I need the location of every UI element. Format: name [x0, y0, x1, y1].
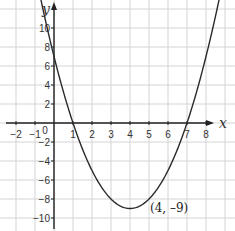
x-tick-label: 8: [203, 129, 209, 140]
y-tick-label: −6: [39, 175, 51, 186]
x-axis-arrow-icon: [206, 120, 214, 126]
y-tick-label: 4: [44, 80, 50, 91]
x-tick-label: 0: [42, 125, 48, 136]
y-tick-label: −8: [39, 194, 51, 205]
y-axis-label: y: [41, 1, 51, 17]
x-tick-label: 2: [89, 129, 95, 140]
parabola-chart: −2−1012345678−10−8−6−4−2246810 x y (4, –…: [0, 0, 235, 231]
x-tick-label: 6: [165, 129, 171, 140]
grid: [0, 0, 235, 231]
y-tick-label: −4: [39, 156, 51, 167]
y-tick-label: 6: [44, 61, 50, 72]
y-tick-label: 8: [44, 42, 50, 53]
x-tick-label: 5: [146, 129, 152, 140]
vertex-annotation: (4, –9): [150, 201, 188, 215]
y-tick-label: −2: [39, 137, 51, 148]
y-axis-arrow-icon: [51, 2, 57, 10]
y-tick-label: −10: [33, 213, 50, 224]
x-tick-label: 3: [108, 129, 114, 140]
y-tick-label: 2: [44, 99, 50, 110]
x-tick-label: −2: [10, 129, 22, 140]
x-tick-label: 4: [127, 129, 133, 140]
x-axis-label: x: [219, 115, 227, 131]
axes: [6, 2, 214, 229]
